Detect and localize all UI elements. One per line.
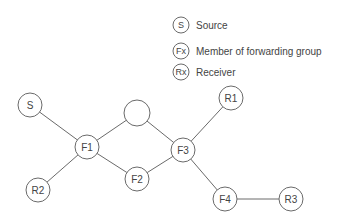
legend-symbol: Fx	[176, 46, 186, 56]
node-f4: F4	[213, 187, 237, 211]
legend-forwarding: Fx Member of forwarding group	[173, 43, 322, 59]
node-r1: R1	[219, 86, 243, 110]
node-label: R1	[225, 93, 238, 104]
node-s: S	[18, 93, 42, 117]
legend-label: Member of forwarding group	[196, 46, 322, 57]
legend-source: S Source	[173, 17, 228, 33]
node-label: F2	[131, 174, 143, 185]
legend-symbol: S	[178, 20, 184, 30]
node-label: R3	[285, 194, 298, 205]
node-empty	[124, 100, 150, 126]
node-label: R2	[32, 185, 45, 196]
node-f1: F1	[75, 135, 99, 159]
node-label: F4	[219, 194, 231, 205]
legend-label: Receiver	[196, 67, 236, 78]
node-r2: R2	[26, 178, 50, 202]
node-label: F1	[81, 142, 93, 153]
node-r3: R3	[279, 187, 303, 211]
node-label: S	[27, 100, 34, 111]
node-f2: F2	[125, 167, 149, 191]
legend-symbol: Rx	[176, 67, 187, 77]
network-diagram: S F1 R2 F2 F3 R1 F4 R3 S Source	[0, 0, 338, 219]
legend-receiver: Rx Receiver	[173, 64, 236, 80]
legend: S Source Fx Member of forwarding group R…	[173, 17, 322, 80]
edges	[30, 98, 291, 199]
node-f3: F3	[171, 138, 195, 162]
node-label: F3	[177, 145, 189, 156]
legend-label: Source	[196, 20, 228, 31]
